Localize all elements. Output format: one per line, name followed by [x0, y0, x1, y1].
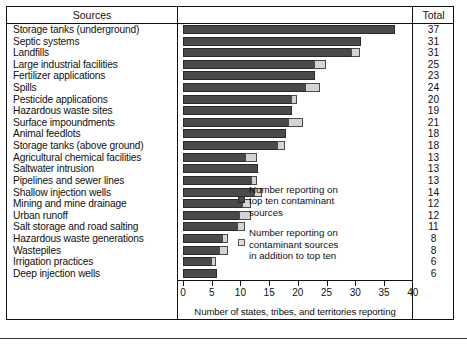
bar-row — [178, 117, 412, 129]
bar-segment-additional — [288, 118, 302, 127]
total-value: 31 — [413, 47, 454, 59]
bar-row — [178, 36, 412, 48]
bar-row — [178, 163, 412, 175]
bottom-rule — [0, 338, 467, 339]
stacked-bar — [183, 71, 315, 80]
bar-segment-top-ten — [183, 25, 395, 34]
bar-segment-top-ten — [183, 164, 258, 173]
source-label: Spills — [7, 82, 177, 94]
legend-swatch-dark-icon — [238, 196, 245, 203]
bar-segment-top-ten — [183, 269, 217, 278]
total-value: 31 — [413, 36, 454, 48]
bar-segment-top-ten — [183, 48, 352, 57]
bar-segment-additional — [222, 234, 228, 243]
source-label: Pesticide applications — [7, 94, 177, 106]
stacked-bar — [183, 164, 258, 173]
total-value: 25 — [413, 59, 454, 71]
total-value: 13 — [413, 152, 454, 164]
legend-entry-dark: Number reporting on top ten contaminant … — [238, 184, 380, 218]
total-value: 24 — [413, 82, 454, 94]
x-axis-tick — [298, 281, 299, 286]
stacked-bar — [183, 83, 320, 92]
chart-table-frame: Sources Total Storage tanks (underground… — [6, 6, 454, 320]
legend-dark-line1: Number reporting on — [238, 184, 380, 195]
total-value: 14 — [413, 187, 454, 199]
bar-row — [178, 140, 412, 152]
bar-segment-top-ten — [183, 199, 243, 208]
bar-row — [178, 47, 412, 59]
total-value: 21 — [413, 117, 454, 129]
bar-row — [178, 94, 412, 106]
legend-swatch-light-icon — [238, 239, 245, 246]
bar-row — [178, 152, 412, 164]
bar-segment-top-ten — [183, 257, 212, 266]
source-label: Saltwater intrusion — [7, 163, 177, 175]
stacked-bar — [183, 222, 245, 231]
bar-segment-top-ten — [183, 60, 315, 69]
x-axis-tick-label: 5 — [209, 287, 215, 298]
stacked-bar — [183, 141, 285, 150]
bar-row — [178, 24, 412, 36]
legend-light-line1: Number reporting on — [238, 227, 380, 238]
total-value: 37 — [413, 24, 454, 36]
x-axis-tick — [240, 281, 241, 286]
x-axis-tick-label: 0 — [180, 287, 186, 298]
total-value: 11 — [413, 221, 454, 233]
stacked-bar — [183, 118, 303, 127]
total-value: 13 — [413, 175, 454, 187]
stacked-bar — [183, 60, 326, 69]
total-value: 18 — [413, 128, 454, 140]
legend-light-line2: contaminant sources — [238, 239, 380, 250]
bar-segment-top-ten — [183, 129, 286, 138]
stacked-bar — [183, 37, 361, 46]
source-label: Animal feedlots — [7, 128, 177, 140]
bar-segment-top-ten — [183, 153, 246, 162]
plot-area: Number reporting on top ten contaminant … — [178, 24, 412, 303]
bar-segment-top-ten — [183, 106, 292, 115]
source-label: Urban runoff — [7, 210, 177, 222]
source-label: Hazardous waste generations — [7, 233, 177, 245]
total-value: 18 — [413, 140, 454, 152]
stacked-bar — [183, 246, 228, 255]
source-label: Large industrial facilities — [7, 59, 177, 71]
stacked-bar — [183, 48, 360, 57]
bar-segment-additional — [211, 257, 217, 266]
total-value: 6 — [413, 268, 454, 280]
chart-figure: Sources Total Storage tanks (underground… — [0, 0, 467, 348]
legend-entry-light: Number reporting on contaminant sources … — [238, 227, 380, 261]
bar-row — [178, 82, 412, 94]
bar-segment-additional — [245, 153, 256, 162]
source-label-column: Storage tanks (underground)Septic system… — [7, 24, 177, 279]
bar-segment-top-ten — [183, 71, 315, 80]
x-axis-tick-label: 25 — [321, 287, 332, 298]
stacked-bar — [183, 153, 257, 162]
bar-segment-top-ten — [183, 95, 292, 104]
x-axis-tick — [384, 281, 385, 286]
source-label: Agricultural chemical facilities — [7, 152, 177, 164]
total-value: 23 — [413, 70, 454, 82]
chart-legend: Number reporting on top ten contaminant … — [238, 184, 380, 270]
source-label: Landfills — [7, 47, 177, 59]
total-value: 19 — [413, 105, 454, 117]
stacked-bar — [183, 129, 286, 138]
source-label: Septic systems — [7, 36, 177, 48]
x-axis-tick-label: 40 — [407, 287, 418, 298]
x-axis-line — [178, 280, 412, 281]
bar-segment-top-ten — [183, 141, 278, 150]
x-axis-tick-label: 10 — [235, 287, 246, 298]
total-value: 8 — [413, 233, 454, 245]
header-sources: Sources — [7, 7, 177, 23]
stacked-bar — [183, 95, 297, 104]
total-column: 3731312523242019211818131313141212118866 — [413, 24, 454, 279]
total-value: 6 — [413, 256, 454, 268]
x-axis-tick-label: 15 — [264, 287, 275, 298]
bar-segment-additional — [219, 246, 228, 255]
x-axis-tick — [355, 281, 356, 286]
source-label: Storage tanks (underground) — [7, 24, 177, 36]
source-label: Wastepiles — [7, 245, 177, 257]
stacked-bar — [183, 106, 292, 115]
x-axis-tick-label: 30 — [350, 287, 361, 298]
legend-dark-line2: top ten contaminant — [238, 195, 380, 206]
x-axis-tick — [269, 281, 270, 286]
source-label: Deep injection wells — [7, 268, 177, 280]
